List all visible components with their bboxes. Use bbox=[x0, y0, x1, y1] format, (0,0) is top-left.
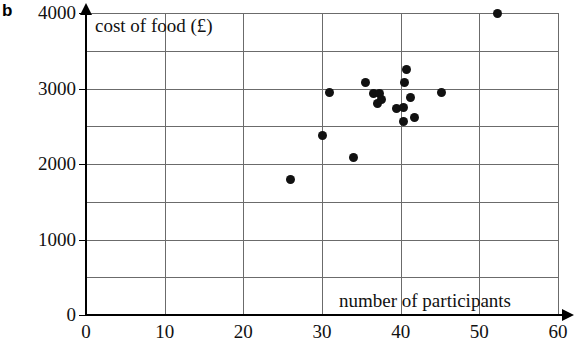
data-points-layer bbox=[0, 0, 575, 358]
data-point bbox=[377, 95, 386, 104]
data-point bbox=[399, 103, 408, 112]
data-point bbox=[410, 113, 419, 122]
data-point bbox=[286, 175, 295, 184]
data-point bbox=[325, 88, 334, 97]
data-point bbox=[349, 153, 358, 162]
data-point bbox=[493, 9, 502, 18]
data-point bbox=[437, 88, 446, 97]
data-point bbox=[399, 117, 408, 126]
data-point bbox=[406, 93, 415, 102]
data-point bbox=[318, 131, 327, 140]
data-point bbox=[402, 65, 411, 74]
scatter-chart-figure: b cost of food (£) number of participant… bbox=[0, 0, 575, 358]
data-point bbox=[400, 78, 409, 87]
data-point bbox=[361, 78, 370, 87]
